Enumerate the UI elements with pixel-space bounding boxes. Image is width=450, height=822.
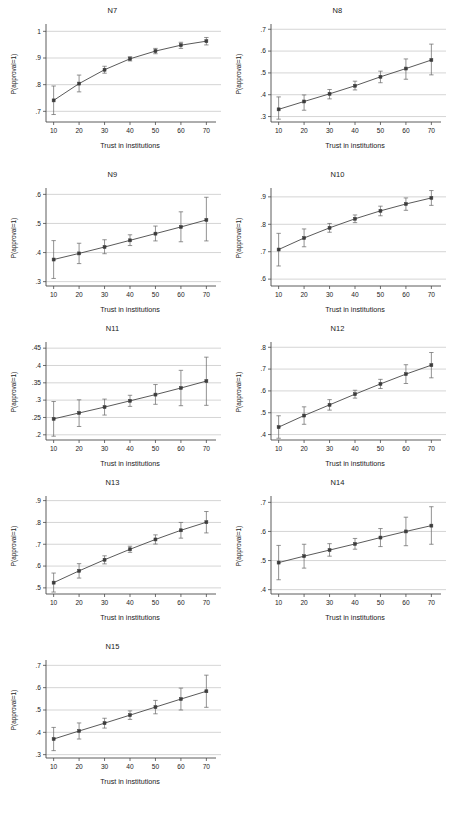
- x-tick-label: 70: [203, 127, 211, 134]
- y-axis-label: P(approval=1): [10, 54, 18, 94]
- x-tick-label: 30: [326, 127, 334, 134]
- y-tick-label: .3: [36, 278, 42, 285]
- x-tick-label: 30: [101, 291, 109, 298]
- data-point-marker: [404, 373, 407, 376]
- x-tick-label: 40: [126, 763, 134, 770]
- x-tick-label: 70: [428, 445, 436, 452]
- panel-n13: N13.5.6.7.8.910203040506070P(approval=1)…: [0, 476, 225, 636]
- x-axis-label: Trust in institutions: [325, 459, 385, 468]
- data-point-marker: [205, 218, 208, 221]
- data-point-marker: [154, 232, 157, 235]
- x-tick-label: 60: [402, 127, 410, 134]
- panel-n14: N14.4.5.6.710203040506070P(approval=1)Tr…: [225, 476, 450, 636]
- y-tick-label: .35: [32, 379, 41, 386]
- y-tick-label: .7: [261, 499, 267, 506]
- y-tick-label: .8: [261, 344, 267, 351]
- data-point-marker: [52, 738, 55, 741]
- y-tick-label: .6: [261, 275, 267, 282]
- data-point-marker: [52, 417, 55, 420]
- x-tick-label: 30: [101, 599, 109, 606]
- y-tick-label: .5: [261, 409, 267, 416]
- plot-area: .7.8.9110203040506070P(approval=1)Trust …: [0, 4, 225, 164]
- data-point-marker: [277, 561, 280, 564]
- x-tick-label: 60: [177, 291, 185, 298]
- data-point-marker: [205, 40, 208, 43]
- data-point-marker: [328, 403, 331, 406]
- x-tick-label: 60: [402, 599, 410, 606]
- x-tick-label: 20: [300, 291, 308, 298]
- data-point-marker: [303, 555, 306, 558]
- data-point-marker: [303, 237, 306, 240]
- x-axis-label: Trust in institutions: [325, 613, 385, 622]
- y-tick-label: .6: [36, 684, 42, 691]
- y-tick-label: .3: [36, 396, 42, 403]
- data-point-marker: [154, 50, 157, 53]
- x-tick-label: 20: [75, 445, 83, 452]
- x-axis-label: Trust in institutions: [325, 305, 385, 314]
- data-point-marker: [179, 529, 182, 532]
- y-tick-label: .3: [261, 113, 267, 120]
- data-point-marker: [303, 414, 306, 417]
- data-point-marker: [52, 258, 55, 261]
- y-axis-label: P(approval=1): [235, 54, 243, 94]
- data-point-marker: [205, 521, 208, 524]
- x-tick-label: 40: [351, 445, 359, 452]
- x-tick-label: 50: [377, 599, 385, 606]
- x-tick-label: 10: [50, 763, 58, 770]
- x-tick-label: 10: [275, 445, 283, 452]
- x-tick-label: 50: [377, 127, 385, 134]
- data-point-marker: [404, 67, 407, 70]
- x-tick-label: 60: [177, 599, 185, 606]
- y-tick-label: .5: [36, 706, 42, 713]
- data-point-marker: [78, 569, 81, 572]
- x-tick-label: 50: [152, 127, 160, 134]
- x-tick-label: 20: [75, 127, 83, 134]
- y-tick-label: .8: [36, 519, 42, 526]
- data-point-marker: [379, 209, 382, 212]
- x-tick-label: 70: [428, 127, 436, 134]
- x-tick-label: 20: [300, 445, 308, 452]
- y-tick-label: .6: [36, 562, 42, 569]
- panel-n9: N9.3.4.5.610203040506070P(approval=1)Tru…: [0, 168, 225, 328]
- plot-area: .4.5.6.710203040506070P(approval=1)Trust…: [225, 476, 450, 636]
- x-axis-label: Trust in institutions: [100, 141, 160, 150]
- x-tick-label: 30: [326, 599, 334, 606]
- data-point-marker: [103, 406, 106, 409]
- y-tick-label: .7: [36, 541, 42, 548]
- y-tick-label: .9: [36, 497, 42, 504]
- y-tick-label: .9: [36, 54, 42, 61]
- y-axis-label: P(approval=1): [10, 372, 18, 412]
- x-tick-label: 20: [300, 599, 308, 606]
- y-tick-label: .6: [261, 387, 267, 394]
- x-tick-label: 50: [377, 445, 385, 452]
- y-tick-label: .8: [261, 221, 267, 228]
- y-axis-label: P(approval=1): [10, 690, 18, 730]
- data-point-marker: [277, 426, 280, 429]
- x-axis-label: Trust in institutions: [100, 459, 160, 468]
- x-tick-label: 60: [177, 127, 185, 134]
- panel-n10: N10.6.7.8.910203040506070P(approval=1)Tr…: [225, 168, 450, 328]
- data-point-marker: [78, 82, 81, 85]
- y-axis-label: P(approval=1): [235, 372, 243, 412]
- plot-area: .2.25.3.35.4.4510203040506070P(approval=…: [0, 322, 225, 482]
- panel-n11: N11.2.25.3.35.4.4510203040506070P(approv…: [0, 322, 225, 482]
- x-tick-label: 50: [152, 291, 160, 298]
- plot-area: .3.4.5.6.710203040506070P(approval=1)Tru…: [0, 640, 225, 800]
- x-tick-label: 60: [177, 763, 185, 770]
- data-point-marker: [354, 393, 357, 396]
- data-point-marker: [129, 714, 132, 717]
- data-point-marker: [103, 558, 106, 561]
- data-point-marker: [129, 548, 132, 551]
- y-tick-label: .4: [36, 362, 42, 369]
- y-tick-label: 1: [37, 28, 41, 35]
- y-tick-label: .3: [36, 751, 42, 758]
- x-tick-label: 10: [275, 127, 283, 134]
- x-tick-label: 60: [177, 445, 185, 452]
- y-tick-label: .45: [32, 344, 41, 351]
- x-axis-label: Trust in institutions: [100, 777, 160, 786]
- x-tick-label: 60: [402, 445, 410, 452]
- x-axis-label: Trust in institutions: [100, 613, 160, 622]
- x-tick-label: 30: [101, 763, 109, 770]
- data-point-marker: [103, 246, 106, 249]
- y-tick-label: .7: [36, 108, 42, 115]
